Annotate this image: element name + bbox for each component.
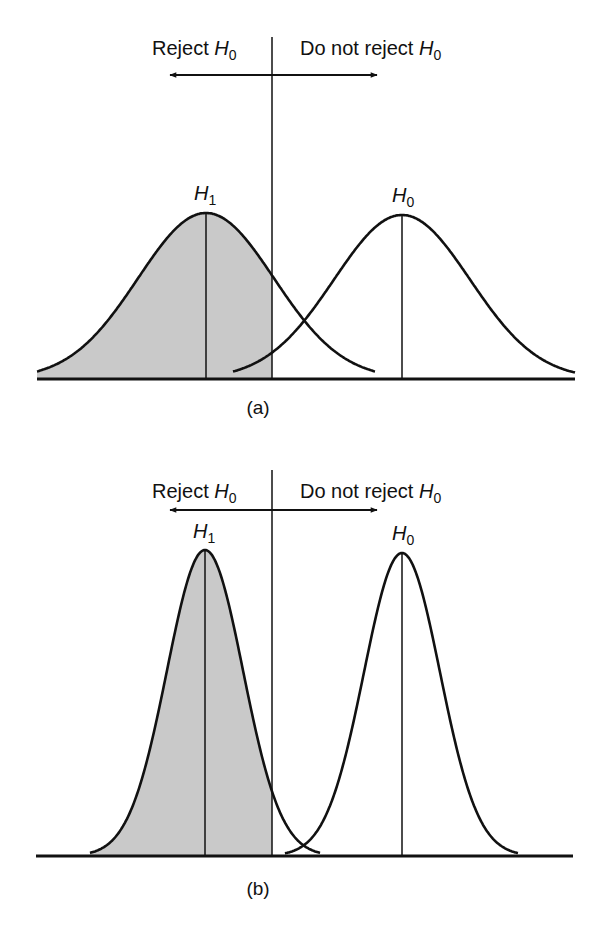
h1-label: H1 bbox=[194, 182, 216, 208]
panel-caption: (a) bbox=[246, 397, 269, 418]
reject-h0-label: Reject H0 bbox=[152, 480, 237, 506]
panel-a: Reject H0 Do not reject H0 H1 H0 (a) bbox=[37, 37, 575, 418]
h0-label: H0 bbox=[392, 184, 414, 210]
h1-label: H1 bbox=[193, 520, 215, 546]
reject-h0-label: Reject H0 bbox=[152, 37, 237, 63]
h0-label: H0 bbox=[392, 522, 414, 548]
do-not-reject-h0-label: Do not reject H0 bbox=[300, 480, 441, 506]
panel-caption: (b) bbox=[246, 878, 269, 899]
panel-b: Reject H0 Do not reject H0 H1 H0 (b) bbox=[36, 470, 573, 899]
power-shaded-region bbox=[90, 550, 272, 856]
do-not-reject-h0-label: Do not reject H0 bbox=[300, 37, 441, 63]
hypothesis-test-figure: Reject H0 Do not reject H0 H1 H0 (a) Rej… bbox=[0, 0, 601, 927]
